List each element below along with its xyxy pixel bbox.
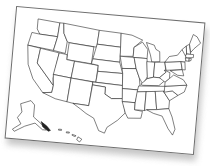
map-card (5, 6, 206, 155)
state-montana (62, 23, 100, 47)
state-alaska (12, 99, 49, 134)
state-new-mexico (67, 78, 93, 106)
state-florida (145, 107, 177, 136)
state-rhode-island (189, 58, 191, 61)
contiguous-us (21, 18, 202, 141)
us-map (6, 7, 205, 154)
state-hawaii (58, 129, 83, 142)
alaska-hawaii (12, 99, 85, 142)
state-maine (189, 34, 202, 53)
map-stage (0, 0, 210, 166)
